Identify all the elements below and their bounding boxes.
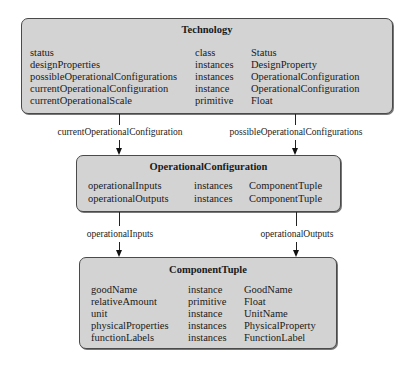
- attribute-row: unit instance UnitName: [80, 308, 336, 319]
- arrowhead-icon: [292, 148, 298, 155]
- node-title: ComponentTuple: [80, 264, 336, 275]
- arrowhead-icon: [293, 250, 299, 257]
- attribute-cardinality: instances: [195, 59, 234, 70]
- attribute-name: designProperties: [30, 59, 100, 70]
- attribute-type: UnitName: [244, 308, 288, 319]
- attribute-name: unit: [91, 308, 107, 319]
- edge-label: possibleOperationalConfigurations: [230, 127, 363, 137]
- attribute-type: ComponentTuple: [249, 193, 322, 204]
- attribute-cardinality: instance: [195, 83, 229, 94]
- edge-line: [296, 212, 297, 226]
- node-component-tuple: ComponentTuple goodName instance GoodNam…: [79, 257, 337, 349]
- attribute-cardinality: class: [195, 47, 215, 58]
- attribute-name: physicalProperties: [91, 320, 169, 331]
- node-title: OperationalConfiguration: [77, 161, 340, 172]
- node-technology: Technology status class Status designPro…: [21, 18, 393, 114]
- attribute-name: possibleOperationalConfigurations: [30, 71, 177, 82]
- edge-line: [119, 212, 120, 226]
- attribute-cardinality: instances: [194, 193, 233, 204]
- attribute-type: OperationalConfiguration: [251, 71, 359, 82]
- attribute-cardinality: primitive: [188, 296, 227, 307]
- attribute-row: designProperties instances DesignPropert…: [22, 59, 392, 70]
- attribute-cardinality: primitive: [195, 95, 234, 106]
- attribute-name: currentOperationalScale: [30, 95, 132, 106]
- attribute-name: currentOperationalConfiguration: [30, 83, 168, 94]
- attribute-name: status: [30, 47, 54, 58]
- attribute-name: functionLabels: [91, 332, 154, 343]
- attribute-cardinality: instances: [188, 332, 227, 343]
- attribute-row: operationalOutputs instances ComponentTu…: [77, 193, 340, 204]
- attribute-name: operationalOutputs: [88, 193, 168, 204]
- attribute-type: DesignProperty: [251, 59, 317, 70]
- attribute-type: Status: [251, 47, 277, 58]
- attribute-row: operationalInputs instances ComponentTup…: [77, 180, 340, 191]
- edge-label: operationalInputs: [87, 229, 153, 239]
- edge-line: [119, 114, 120, 125]
- attribute-row: goodName instance GoodName: [80, 284, 336, 295]
- attribute-row: relativeAmount primitive Float: [80, 296, 336, 307]
- node-title: Technology: [22, 24, 392, 35]
- attribute-type: PhysicalProperty: [244, 320, 316, 331]
- attribute-row: functionLabels instances FunctionLabel: [80, 332, 336, 343]
- attribute-type: GoodName: [244, 284, 292, 295]
- edge-label: currentOperationalConfiguration: [57, 127, 182, 137]
- attribute-type: OperationalConfiguration: [251, 83, 359, 94]
- attribute-name: goodName: [91, 284, 137, 295]
- attribute-name: operationalInputs: [88, 180, 161, 191]
- attribute-cardinality: instance: [188, 284, 222, 295]
- attribute-cardinality: instances: [194, 180, 233, 191]
- arrowhead-icon: [116, 250, 122, 257]
- edge-line: [295, 114, 296, 125]
- arrowhead-icon: [116, 148, 122, 155]
- attribute-row: currentOperationalScale primitive Float: [22, 95, 392, 106]
- attribute-type: FunctionLabel: [244, 332, 305, 343]
- attribute-cardinality: instances: [195, 71, 234, 82]
- attribute-row: status class Status: [22, 47, 392, 58]
- attribute-cardinality: instance: [188, 308, 222, 319]
- attribute-row: possibleOperationalConfigurations instan…: [22, 71, 392, 82]
- attribute-type: Float: [244, 296, 266, 307]
- attribute-row: physicalProperties instances PhysicalPro…: [80, 320, 336, 331]
- attribute-type: ComponentTuple: [249, 180, 322, 191]
- attribute-name: relativeAmount: [91, 296, 157, 307]
- edge-label: operationalOutputs: [261, 229, 334, 239]
- node-operational-configuration: OperationalConfiguration operationalInpu…: [76, 155, 341, 212]
- attribute-type: Float: [251, 95, 273, 106]
- attribute-row: currentOperationalConfiguration instance…: [22, 83, 392, 94]
- attribute-cardinality: instances: [188, 320, 227, 331]
